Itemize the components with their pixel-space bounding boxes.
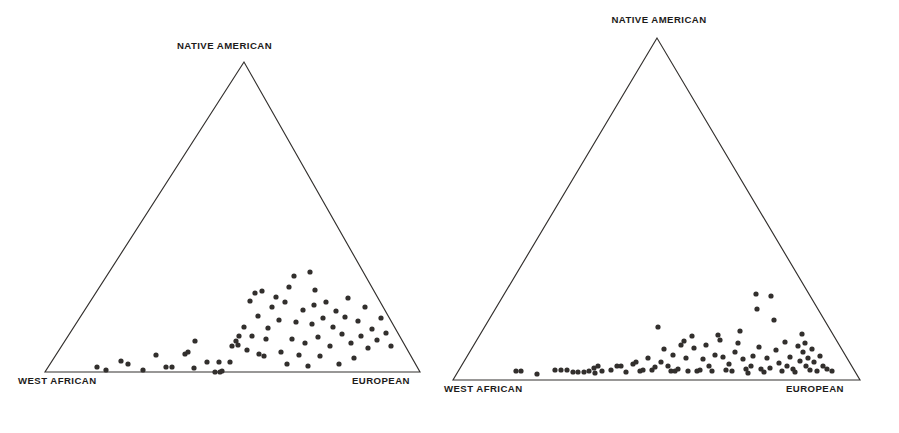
data-point [753, 291, 758, 296]
data-point [265, 325, 270, 330]
data-point [278, 349, 283, 354]
data-point [618, 363, 623, 368]
data-point [315, 334, 320, 339]
data-point [802, 340, 807, 345]
data-points-right [513, 291, 834, 376]
data-point [700, 356, 705, 361]
data-point [809, 346, 814, 351]
data-point [805, 355, 810, 360]
data-point [330, 324, 335, 329]
triangle-outline-left [45, 62, 420, 372]
axis-label-west-african-left: WEST AFRICAN [18, 375, 97, 386]
data-point [269, 304, 274, 309]
axis-label-native-american-left: NATIVE AMERICAN [0, 40, 449, 51]
data-point [681, 338, 686, 343]
data-point [383, 330, 388, 335]
data-point [296, 352, 301, 357]
data-point [305, 363, 310, 368]
data-point [732, 349, 737, 354]
ternary-plots-figure: NATIVE AMERICAN WEST AFRICAN EUROPEAN NA… [0, 0, 899, 433]
data-point [351, 355, 356, 360]
data-point [378, 315, 383, 320]
data-point [286, 284, 291, 289]
data-point [369, 326, 374, 331]
data-point [513, 368, 518, 373]
data-point [771, 317, 776, 322]
data-point [779, 368, 784, 373]
data-point [216, 359, 221, 364]
data-point [185, 349, 190, 354]
data-point [273, 294, 278, 299]
data-point [311, 302, 316, 307]
data-points-left [94, 269, 393, 374]
data-point [623, 369, 628, 374]
data-point [191, 365, 196, 370]
data-point [608, 367, 613, 372]
data-point [581, 369, 586, 374]
data-point [247, 298, 252, 303]
data-point [764, 355, 769, 360]
data-point [263, 336, 268, 341]
data-point [803, 363, 808, 368]
ternary-plot-left: NATIVE AMERICAN WEST AFRICAN EUROPEAN [0, 0, 449, 433]
data-point [592, 370, 597, 375]
data-point [336, 361, 341, 366]
data-point [342, 314, 347, 319]
data-point [345, 295, 350, 300]
data-point [683, 355, 688, 360]
data-point [784, 363, 789, 368]
data-point [358, 333, 363, 338]
data-point [709, 368, 714, 373]
data-point [787, 354, 792, 359]
data-point [740, 356, 745, 361]
data-point [388, 343, 393, 348]
data-point [776, 360, 781, 365]
data-point [204, 359, 209, 364]
data-point [586, 368, 591, 373]
data-point [715, 332, 720, 337]
data-point [767, 365, 772, 370]
data-point [691, 345, 696, 350]
axis-label-native-american-right: NATIVE AMERICAN [449, 14, 869, 25]
data-point [807, 367, 812, 372]
data-point [365, 345, 370, 350]
data-point [761, 369, 766, 374]
data-point [249, 333, 254, 338]
data-point [241, 324, 246, 329]
axis-label-european-right: EUROPEAN [786, 383, 844, 394]
data-point [302, 340, 307, 345]
data-point [675, 366, 680, 371]
data-point [374, 337, 379, 342]
data-point [655, 324, 660, 329]
data-point [227, 359, 232, 364]
data-point [327, 343, 332, 348]
data-point [750, 353, 755, 358]
data-point [236, 333, 241, 338]
data-point [782, 339, 787, 344]
data-point [103, 367, 108, 372]
data-point [276, 317, 281, 322]
data-point [748, 363, 753, 368]
data-point [712, 352, 717, 357]
data-point [689, 333, 694, 338]
data-point [94, 364, 99, 369]
axis-label-west-african-right: WEST AFRICAN [444, 383, 523, 394]
data-point [256, 351, 261, 356]
data-point [534, 371, 539, 376]
data-point [745, 370, 750, 375]
data-point [824, 366, 829, 371]
data-point [320, 315, 325, 320]
data-point [235, 342, 240, 347]
data-point [317, 353, 322, 358]
data-point [309, 321, 314, 326]
data-point [339, 331, 344, 336]
data-point [362, 304, 367, 309]
data-point [244, 347, 249, 352]
data-point [811, 359, 816, 364]
data-point [599, 368, 604, 373]
data-point [333, 308, 338, 313]
data-point [754, 306, 759, 311]
data-point [799, 331, 804, 336]
data-point [229, 343, 234, 348]
data-point [518, 368, 523, 373]
